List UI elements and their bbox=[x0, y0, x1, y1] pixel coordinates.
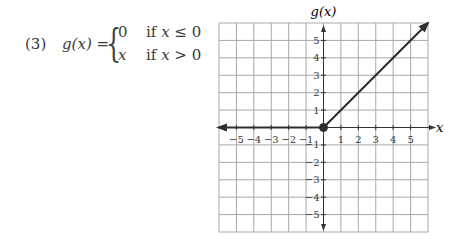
y-tick-label: 4 bbox=[313, 52, 319, 63]
y-tick-label: −3 bbox=[305, 174, 320, 185]
y-tick-label: −2 bbox=[305, 157, 320, 168]
x-tick-label: 2 bbox=[355, 134, 361, 145]
x-tick-label: 1 bbox=[338, 134, 344, 145]
y-axis-arrow-down-icon bbox=[321, 224, 326, 231]
y-axis-label: g(x) bbox=[311, 4, 337, 19]
series bbox=[216, 22, 429, 132]
origin-point bbox=[320, 124, 328, 132]
graph: −5−4−3−2−112345−5−4−3−2−112345 g(x) x bbox=[0, 0, 466, 239]
x-tick-label: 3 bbox=[373, 134, 379, 145]
y-tick-label: −1 bbox=[305, 139, 320, 150]
y-tick-label: 2 bbox=[313, 87, 319, 98]
x-tick-label: 4 bbox=[390, 134, 396, 145]
x-tick-label: −3 bbox=[264, 134, 279, 145]
y-tick-label: 3 bbox=[313, 70, 319, 81]
y-tick-label: −4 bbox=[305, 192, 320, 203]
x-tick-label: 5 bbox=[407, 134, 413, 145]
x-axis-arrow-icon bbox=[429, 125, 436, 130]
y-tick-label: 1 bbox=[313, 105, 319, 116]
x-tick-label: −5 bbox=[229, 134, 244, 145]
x-tick-label: −4 bbox=[246, 134, 261, 145]
series-arrow-left-icon bbox=[216, 124, 227, 132]
x-axis-label: x bbox=[436, 120, 444, 135]
y-tick-label: −5 bbox=[305, 209, 320, 220]
y-tick-label: 5 bbox=[313, 35, 319, 46]
y-axis-arrow-up-icon bbox=[321, 25, 326, 32]
x-tick-label: −2 bbox=[281, 134, 296, 145]
